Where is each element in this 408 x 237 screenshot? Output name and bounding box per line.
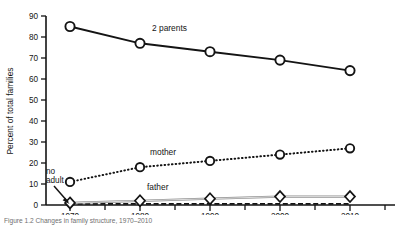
series-label-two-parents: 2 parents bbox=[152, 23, 187, 33]
father-marker-2010 bbox=[345, 191, 355, 202]
two-parents-marker-2010 bbox=[345, 66, 354, 75]
y-tick-label-40: 40 bbox=[29, 117, 39, 126]
x-tick-label-1980: 1980 bbox=[131, 212, 150, 215]
mother-marker-1990 bbox=[206, 157, 214, 165]
axes-group bbox=[46, 16, 395, 205]
x-axis-tick-labels: 1970 1980 1990 2000 2010 bbox=[61, 212, 360, 215]
x-axis-ticks bbox=[70, 205, 385, 211]
series-label-father: father bbox=[147, 182, 169, 192]
mother-marker-2000 bbox=[276, 150, 284, 158]
x-tick-label-2010: 2010 bbox=[341, 212, 360, 215]
y-axis-tick-labels: 0 10 20 30 40 50 60 70 80 90 bbox=[29, 12, 39, 210]
two-parents-marker-1980 bbox=[135, 39, 144, 48]
y-tick-label-30: 30 bbox=[29, 138, 39, 147]
x-tick-label-1990: 1990 bbox=[201, 212, 220, 215]
father-marker-1990 bbox=[205, 193, 215, 204]
mother-marker-2010 bbox=[346, 144, 354, 152]
y-tick-label-10: 10 bbox=[29, 180, 39, 189]
two-parents-marker-2000 bbox=[275, 56, 284, 65]
line-chart-svg: 0 10 20 30 40 50 60 70 80 90 Percent of … bbox=[0, 0, 408, 215]
figure-caption: Figure 1.2 Changes in family structure, … bbox=[4, 216, 404, 225]
y-axis-title: Percent of total families bbox=[5, 67, 15, 154]
y-tick-label-0: 0 bbox=[33, 201, 38, 210]
chart-figure: 0 10 20 30 40 50 60 70 80 90 Percent of … bbox=[0, 0, 408, 237]
series-label-mother: mother bbox=[150, 147, 176, 157]
chart-plot-area: 0 10 20 30 40 50 60 70 80 90 Percent of … bbox=[0, 0, 408, 215]
y-tick-label-60: 60 bbox=[29, 75, 39, 84]
two-parents-marker-1990 bbox=[205, 47, 214, 56]
series-mother bbox=[66, 144, 354, 186]
father-marker-1970 bbox=[65, 197, 75, 208]
annotation-no-adult-line2: adult bbox=[46, 176, 64, 185]
father-marker-2000 bbox=[275, 191, 285, 202]
series-two-parents bbox=[65, 22, 354, 75]
x-tick-label-1970: 1970 bbox=[61, 212, 80, 215]
y-tick-label-90: 90 bbox=[29, 12, 39, 21]
annotation-no-adult-line1: no bbox=[46, 167, 56, 176]
y-tick-label-80: 80 bbox=[29, 33, 39, 42]
x-tick-label-2000: 2000 bbox=[271, 212, 290, 215]
y-tick-label-70: 70 bbox=[29, 54, 39, 63]
mother-marker-1970 bbox=[66, 178, 74, 186]
two-parents-marker-1970 bbox=[65, 22, 74, 31]
y-tick-label-50: 50 bbox=[29, 96, 39, 105]
annotation-no-adult: no adult bbox=[46, 167, 70, 204]
mother-marker-1980 bbox=[136, 163, 144, 171]
y-tick-label-20: 20 bbox=[29, 159, 39, 168]
